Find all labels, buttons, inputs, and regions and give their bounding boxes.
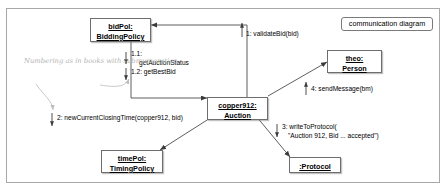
- numbering-annotation-line2: with submumeration: [106, 57, 177, 65]
- message-2-text: 2: newCurrentClosingTime(copper912, bid): [57, 114, 183, 121]
- diagram-kind-note: communication diagram: [341, 17, 433, 31]
- message-3-text-line2: "Auction 912, Bid ... accepted"): [288, 132, 379, 141]
- object-theo-line1: theo:: [328, 54, 381, 64]
- numbering-annotation-line1: Numbering as in books: [24, 57, 104, 65]
- object-theo-line2: Person: [328, 64, 381, 74]
- object-timepol-line2: TimingPolicy: [102, 164, 162, 174]
- object-theo-person[interactable]: theo: Person: [327, 50, 382, 73]
- message-1-text: 1: validateBid(bid): [246, 30, 299, 37]
- message-2-newcurrentclosingtime: 2: newCurrentClosingTime(copper912, bid): [57, 114, 183, 123]
- message-4-sendmessage: 4: sendMessage(bm): [311, 85, 373, 94]
- message-1-1-text: 1.1:: [131, 50, 142, 57]
- object-copper912-line2: Auction: [208, 111, 267, 121]
- object-bidpol-line1: bidPol:: [91, 22, 150, 32]
- message-3-text: 3: writeToProtocol(: [282, 123, 337, 130]
- message-4-text: 4: sendMessage(bm): [311, 85, 373, 92]
- diagram-kind-label: communication diagram: [349, 19, 425, 28]
- object-bidpol-line2: BiddingPolicy: [91, 32, 150, 42]
- object-timepol-timingpolicy[interactable]: timePol: TimingPolicy: [101, 150, 163, 173]
- annotation-leader-down: [36, 84, 53, 110]
- message-1-2-getbestbid: 1.2: getBestBid: [131, 68, 176, 77]
- object-protocol-line1: :Protocol: [290, 162, 340, 172]
- object-copper912-line1: copper912:: [208, 101, 267, 111]
- object-timepol-line1: timePol:: [102, 154, 162, 164]
- numbering-annotation: Numbering as in books with submumeration: [24, 57, 178, 67]
- object-protocol[interactable]: :Protocol: [289, 157, 341, 173]
- message-1-validatebid: 1: validateBid(bid): [246, 30, 299, 39]
- message-3-writetoprotocol: 3: writeToProtocol( "Auction 912, Bid ..…: [282, 123, 379, 140]
- message-1-2-text: 1.2: getBestBid: [131, 68, 176, 75]
- object-bidpol-biddingpolicy[interactable]: bidPol: BiddingPolicy: [90, 18, 151, 42]
- communication-diagram-canvas: bidPol: BiddingPolicy copper912: Auction…: [0, 0, 447, 193]
- annotation-leader-right: [100, 79, 129, 86]
- object-copper912-auction[interactable]: copper912: Auction: [207, 97, 268, 120]
